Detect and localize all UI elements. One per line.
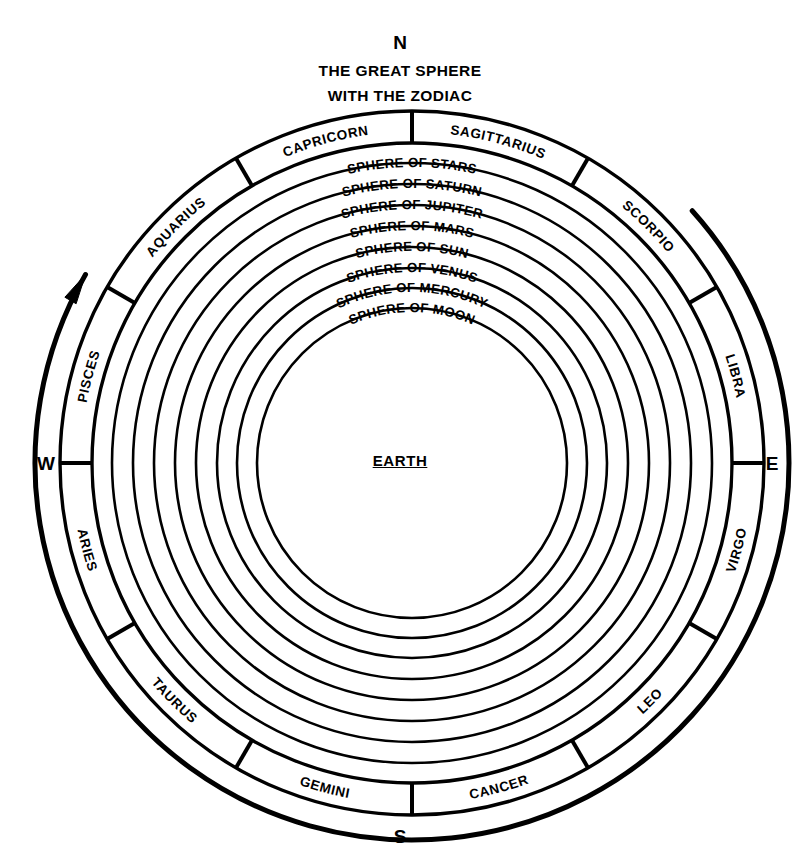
zodiac-label-taurus: TAURUS xyxy=(149,675,201,727)
zodiac-segment-divider xyxy=(572,740,588,768)
diagram-title-line-1: THE GREAT SPHERE xyxy=(0,62,800,80)
zodiac-segment-divider xyxy=(107,623,135,639)
compass-north: N xyxy=(0,32,800,54)
zodiac-segment-divider xyxy=(236,740,252,768)
zodiac-segment-divider xyxy=(107,287,135,303)
great-sphere-diagram: SAGITTARIUSSCORPIOLIBRAVIRGOLEOCANCERGEM… xyxy=(0,0,800,866)
diagram-title-line-2: WITH THE ZODIAC xyxy=(0,87,800,105)
sphere-label-saturn: SPHERE OF SATURN xyxy=(341,176,484,200)
zodiac-segment-divider xyxy=(689,623,717,639)
zodiac-label-virgo: VIRGO xyxy=(723,526,749,574)
great-sphere-direction-arrowhead xyxy=(65,275,86,304)
zodiac-segment-divider xyxy=(236,158,252,186)
compass-south: S xyxy=(0,826,800,848)
zodiac-label-aries: ARIES xyxy=(75,527,101,573)
sphere-label-moon: SPHERE OF MOON xyxy=(347,300,478,328)
sphere-label-stars: SPHERE OF STARS xyxy=(346,155,478,177)
zodiac-label-libra: LIBRA xyxy=(722,352,748,399)
sphere-label-jupiter: SPHERE OF JUPITER xyxy=(339,197,484,222)
zodiac-segment-divider xyxy=(572,158,588,186)
zodiac-segment-divider xyxy=(689,287,717,303)
earth-center-label: EARTH xyxy=(0,452,800,469)
sphere-label-sun: SPHERE OF SUN xyxy=(354,239,470,261)
sphere-label-group: SPHERE OF STARSSPHERE OF SATURNSPHERE OF… xyxy=(334,155,490,328)
diagram-canvas: SAGITTARIUSSCORPIOLIBRAVIRGOLEOCANCERGEM… xyxy=(0,0,800,866)
sphere-label-mars: SPHERE OF MARS xyxy=(348,218,475,241)
